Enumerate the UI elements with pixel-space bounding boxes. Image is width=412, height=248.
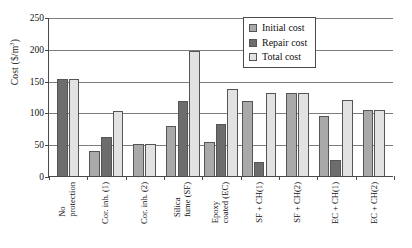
x-axis-label-line1: SF + CH(2) (292, 182, 302, 223)
x-tick-mark (126, 176, 127, 180)
bar-chart: Cost ($/m3) 250200150100500 Noprotection… (0, 0, 412, 248)
bar-group (317, 18, 355, 176)
x-tick-mark (356, 176, 357, 180)
legend-label: Repair cost (262, 37, 307, 49)
x-axis-label-line1: EC + CH(2) (369, 182, 379, 224)
x-axis-label: SF + CH(1) (254, 182, 264, 223)
y-tick-label: 100 (30, 108, 44, 118)
bar-group (125, 18, 163, 176)
bar-initial[interactable] (204, 142, 215, 176)
x-axis-label-line1: Cor. inh. (1) (100, 182, 110, 224)
x-label-slot: SF + CH(1) (240, 182, 278, 248)
legend-label: Initial cost (262, 22, 305, 34)
x-tick-mark (202, 176, 203, 180)
bar-repair[interactable] (57, 79, 68, 176)
x-axis-label: EC + CH(2) (369, 182, 379, 224)
x-axis-label-line1: EC + CH(1) (330, 182, 340, 224)
y-axis-title-exponent: 3 (8, 42, 15, 45)
bar-total[interactable] (342, 100, 353, 176)
x-axis-labels: NoprotectionCor. inh. (1)Cor. inh. (2)Si… (48, 182, 393, 248)
x-axis-label-line1: Silica (172, 198, 182, 218)
x-tick-mark (164, 176, 165, 180)
legend-item[interactable]: Total cost (249, 51, 307, 63)
x-axis-label-line2: protection (67, 182, 77, 217)
plot-area: 250200150100500 (48, 18, 393, 177)
x-axis-label: EC + CH(1) (330, 182, 340, 224)
bar-total[interactable] (113, 111, 124, 176)
bar-repair[interactable] (178, 101, 189, 176)
y-tick-label: 200 (30, 45, 44, 55)
x-tick-mark (241, 176, 242, 180)
bar-group (355, 18, 393, 176)
y-tick-label: 150 (30, 77, 44, 87)
bar-repair[interactable] (101, 137, 112, 176)
legend-swatch-icon (249, 53, 257, 61)
x-tick-mark (49, 176, 50, 180)
x-axis-label-line1: Cor. inh. (2) (139, 182, 149, 224)
x-label-slot: Noprotection (48, 182, 86, 248)
x-label-slot: Cor. inh. (1) (86, 182, 124, 248)
bar-initial[interactable] (166, 126, 177, 176)
bar-group (87, 18, 125, 176)
legend-label: Total cost (262, 51, 301, 63)
x-label-slot: EC + CH(1) (316, 182, 354, 248)
bar-repair[interactable] (254, 162, 265, 176)
bar-group (164, 18, 202, 176)
bar-repair[interactable] (330, 160, 341, 176)
x-axis-label-line1: No (57, 206, 67, 217)
y-axis-title-tail: ) (10, 39, 20, 42)
bar-total[interactable] (227, 89, 238, 176)
bar-initial[interactable] (89, 151, 100, 176)
bar-group (202, 18, 240, 176)
y-tick-label: 50 (35, 140, 45, 150)
legend-swatch-icon (249, 24, 257, 32)
bar-total[interactable] (69, 79, 80, 176)
y-tick-label: 0 (39, 172, 44, 182)
x-label-slot: Epoxycoated (EC) (201, 182, 239, 248)
x-axis-label-line1: Epoxy (210, 201, 220, 223)
x-label-slot: Cor. inh. (2) (125, 182, 163, 248)
legend-item[interactable]: Repair cost (249, 37, 307, 49)
x-axis-label: Cor. inh. (1) (100, 182, 110, 224)
bar-total[interactable] (145, 144, 156, 176)
bar-repair[interactable] (216, 124, 227, 176)
bar-total[interactable] (298, 93, 309, 176)
x-axis-label: SF + CH(2) (292, 182, 302, 223)
x-label-slot: Silicafume (SF) (163, 182, 201, 248)
bar-initial[interactable] (363, 110, 374, 176)
y-axis-title: Cost ($/m3) (8, 7, 20, 117)
x-axis-label: Silicafume (SF) (172, 182, 192, 217)
x-tick-mark (317, 176, 318, 180)
x-tick-mark (87, 176, 88, 180)
x-axis-label-line2: coated (EC) (220, 182, 230, 223)
x-label-slot: EC + CH(2) (355, 182, 393, 248)
bars-layer (49, 18, 393, 176)
bar-total[interactable] (266, 93, 277, 176)
y-axis-title-text: Cost ($/m (10, 46, 20, 86)
legend-swatch-icon (249, 39, 257, 47)
x-label-slot: SF + CH(2) (278, 182, 316, 248)
chart-legend: Initial costRepair costTotal cost (243, 17, 316, 68)
x-axis-label: Epoxycoated (EC) (210, 182, 230, 223)
bar-group (49, 18, 87, 176)
legend-item[interactable]: Initial cost (249, 22, 307, 34)
x-tick-mark (279, 176, 280, 180)
x-axis-label: Cor. inh. (2) (139, 182, 149, 224)
x-axis-label-line2: fume (SF) (182, 182, 192, 217)
bar-total[interactable] (189, 51, 200, 176)
x-axis-label-line1: SF + CH(1) (254, 182, 264, 223)
bar-initial[interactable] (319, 116, 330, 176)
x-axis-label: Noprotection (57, 182, 77, 217)
x-tick-mark (394, 176, 395, 180)
bar-initial[interactable] (133, 144, 144, 176)
bar-initial[interactable] (286, 93, 297, 176)
bar-initial[interactable] (242, 101, 253, 176)
y-tick-label: 250 (30, 13, 44, 23)
bar-total[interactable] (374, 110, 385, 176)
